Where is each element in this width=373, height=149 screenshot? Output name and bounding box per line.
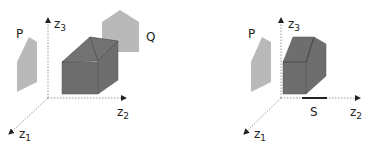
z1-axis [9,98,48,134]
label-z1: z1 [254,127,266,143]
solid-front [62,62,98,94]
solid-front [283,62,306,94]
label-p: P [248,27,255,41]
label-s: S [310,105,318,119]
label-z2: z2 [350,105,362,121]
projection-p [251,37,271,92]
label-z3: z3 [54,17,66,33]
label-p: P [16,27,23,41]
label-q: Q [146,30,155,44]
diagram: z3 P Q z2 z1 z3 P S z2 z1 [0,0,373,149]
label-z3: z3 [288,17,300,33]
label-z2: z2 [117,105,129,121]
left-panel: z3 P Q z2 z1 [9,10,155,143]
right-panel: z3 P S z2 z1 [244,17,362,143]
z1-axis [244,98,281,134]
projection-p [17,37,37,92]
label-z1: z1 [19,127,31,143]
